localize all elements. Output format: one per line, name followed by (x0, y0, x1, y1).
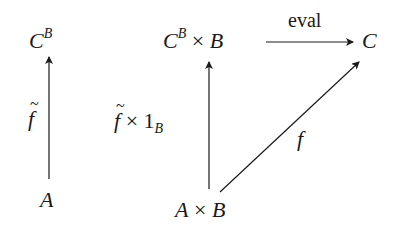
label-eval: eval (288, 10, 321, 30)
times-symbol: × (192, 28, 204, 53)
node-exponent: B (44, 26, 53, 41)
label-f-diagonal: f (297, 128, 303, 150)
times-symbol: × (126, 108, 138, 133)
label-f: f (114, 110, 120, 132)
label-f: f (297, 126, 303, 151)
node-base: C (163, 28, 178, 53)
times-symbol: × (194, 197, 206, 222)
node-base: A (40, 187, 53, 212)
node-c-to-the-b-times-b: CB × B (163, 30, 223, 52)
node-exponent: B (178, 26, 187, 41)
node-a-times-b: A × B (175, 199, 225, 221)
label-f: f (28, 108, 34, 130)
node-c-right: C (362, 30, 377, 52)
node-c-to-the-b-left: CB (29, 30, 52, 52)
label-eval-text: eval (288, 9, 321, 31)
node-a-left: A (40, 189, 53, 211)
node-base: C (29, 28, 44, 53)
node-factor: B (210, 28, 223, 53)
label-f-tilde: f (28, 108, 34, 130)
identity-subscript: B (155, 121, 164, 136)
node-base: A (175, 197, 188, 222)
node-base: C (362, 28, 377, 53)
label-f-tilde-times-1b: f × 1B (114, 110, 163, 132)
identity-one: 1 (144, 108, 155, 133)
arrow-f-diagonal (220, 62, 359, 192)
node-factor: B (212, 197, 225, 222)
